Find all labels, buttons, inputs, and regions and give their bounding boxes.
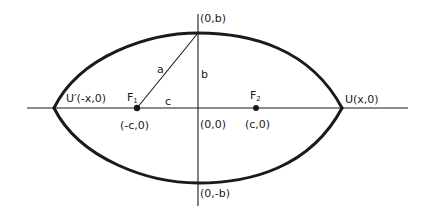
left-vertex-coords: (-x,0) (77, 92, 107, 105)
diagram-canvas: (0,b) (0,-b) (0,0) U(x,0) U′(-x,0) F1 (-… (0, 0, 424, 219)
segment-b-label: b (201, 68, 208, 81)
focus2-dot (253, 105, 259, 111)
origin-label: (0,0) (200, 118, 226, 131)
focus1-subscript: 1 (133, 97, 137, 105)
focus1-coords: (-c,0) (120, 119, 149, 132)
focus1-label: F1 (127, 91, 138, 105)
segment-a-label: a (157, 63, 164, 76)
focus2-subscript: 2 (256, 95, 260, 103)
left-vertex-prefix: U′ (66, 92, 77, 105)
top-point-label: (0,b) (200, 12, 226, 25)
right-vertex-label: U(x,0) (345, 93, 379, 106)
focus1-dot (134, 105, 140, 111)
bottom-point-label: (0,-b) (200, 187, 230, 200)
focus2-label: F2 (250, 89, 261, 103)
segment-c-label: c (165, 95, 171, 108)
focus2-coords: (c,0) (245, 118, 270, 131)
left-vertex-label: U′(-x,0) (66, 92, 106, 105)
